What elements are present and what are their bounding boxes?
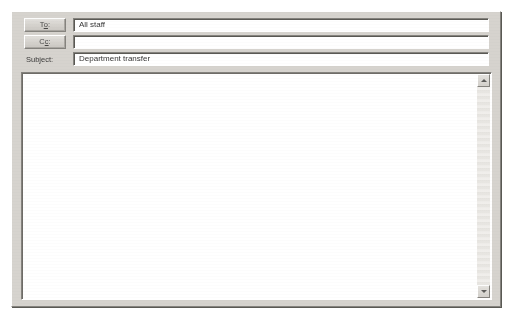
to-row: To: All staff [12,18,500,33]
subject-field[interactable]: Department transfer [73,52,489,66]
subject-label: Subject: [26,54,70,65]
scrollbar-track[interactable] [477,87,490,285]
to-button-label: To: [40,21,50,29]
cc-picker-button[interactable]: Cc: [24,35,66,49]
arrow-up-icon [481,79,487,82]
scroll-up-button[interactable] [477,74,490,87]
cc-button-label: Cc: [39,38,51,46]
message-body-area[interactable] [21,72,492,300]
cc-field[interactable] [73,35,489,49]
subject-field-value: Department transfer [79,53,485,65]
to-field-value: All staff [79,19,485,31]
message-header-area: To: All staff Cc: Subject: Department tr… [12,12,500,70]
cc-row: Cc: [12,35,500,50]
compose-message-window: To: All staff Cc: Subject: Department tr… [11,11,501,307]
arrow-down-icon [481,290,487,293]
message-body-scrollbar[interactable] [477,74,490,298]
subject-row: Subject: Department transfer [12,52,500,67]
cc-field-value [79,36,485,48]
to-field[interactable]: All staff [73,18,489,32]
scroll-down-button[interactable] [477,285,490,298]
to-picker-button[interactable]: To: [24,18,66,32]
message-body-text [26,75,474,297]
